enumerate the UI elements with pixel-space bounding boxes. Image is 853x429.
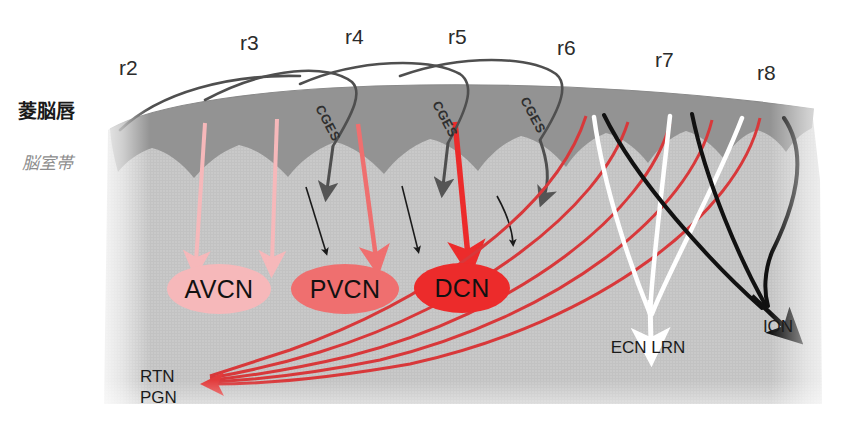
label-r7: r7	[655, 48, 674, 71]
label-r3: r3	[240, 31, 259, 54]
pvcn-label: PVCN	[310, 275, 381, 303]
rhombomere-labels: r2 r3 r4 r5 r6 r7 r8	[119, 25, 776, 84]
avcn-label: AVCN	[185, 275, 254, 303]
label-r5: r5	[448, 25, 467, 48]
rtn-label: RTN	[140, 367, 175, 386]
ventricular-zone-label: 脳室帯	[22, 153, 76, 173]
label-r2: r2	[119, 56, 138, 79]
nucleus-dcn[interactable]: DCN	[414, 263, 510, 313]
pgn-label: PGN	[140, 388, 177, 407]
nucleus-avcn[interactable]: AVCN	[167, 264, 271, 314]
label-r6: r6	[557, 36, 576, 59]
nucleus-pvcn[interactable]: PVCN	[291, 264, 399, 314]
rhombic-lip-label: 菱脳唇	[18, 100, 75, 122]
rhombic-lip-diagram: AVCN PVCN DCN r2 r3 r4 r5 r6 r7 r8 CGES …	[0, 0, 853, 429]
bottom-edge-fade	[100, 380, 826, 429]
label-r4: r4	[345, 25, 364, 48]
label-r8: r8	[757, 61, 776, 84]
ion-label: ION	[763, 317, 793, 336]
diagram-canvas: AVCN PVCN DCN r2 r3 r4 r5 r6 r7 r8 CGES …	[0, 0, 853, 429]
left-edge-fade	[90, 80, 150, 410]
right-edge-fade	[770, 80, 853, 410]
cochlear-nuclei: AVCN PVCN DCN	[167, 263, 510, 314]
zone-labels: 菱脳唇 脳室帯	[18, 100, 76, 173]
dcn-label: DCN	[434, 274, 489, 302]
ecn-lrn-label: ECN LRN	[611, 338, 686, 357]
